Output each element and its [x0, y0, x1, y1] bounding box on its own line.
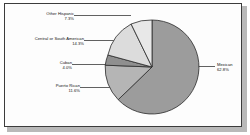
pie-label-other-hispanic: Other Hispanic 7.3% — [22, 11, 74, 21]
pie-label-other-hispanic-pct: 7.3% — [22, 16, 74, 21]
pie-label-cuban-pct: 4.0% — [32, 65, 72, 70]
pie-label-cuban: Cuban 4.0% — [32, 60, 72, 70]
pie-label-mexican-pct: 62.8% — [217, 67, 249, 72]
pie-label-central-or-south-american: Central or South American 14.3% — [8, 36, 84, 46]
pie-label-puerto-rican: Puerto Rican 11.6% — [28, 83, 80, 93]
pie-label-central-or-south-american-pct: 14.3% — [8, 41, 84, 46]
pie-label-mexican: Mexican 62.8% — [217, 62, 249, 72]
pie-chart-figure: Other Hispanic 7.3% Central or South Ame… — [0, 0, 250, 135]
pie-label-puerto-rican-pct: 11.6% — [28, 88, 80, 93]
pie-slices — [105, 20, 199, 114]
